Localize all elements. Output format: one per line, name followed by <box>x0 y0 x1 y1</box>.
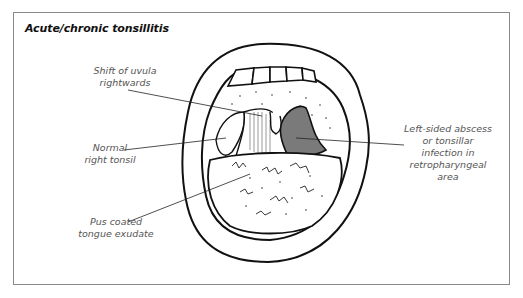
label-left-abscess: Left-sided abscess or tonsillar infectio… <box>398 123 498 183</box>
label-normal-right-tonsil: Normal right tonsil <box>70 142 150 166</box>
label-tongue-exudate: Pus coated tongue exudate <box>66 216 166 240</box>
label-uvula-shift: Shift of uvula rightwards <box>70 65 180 89</box>
